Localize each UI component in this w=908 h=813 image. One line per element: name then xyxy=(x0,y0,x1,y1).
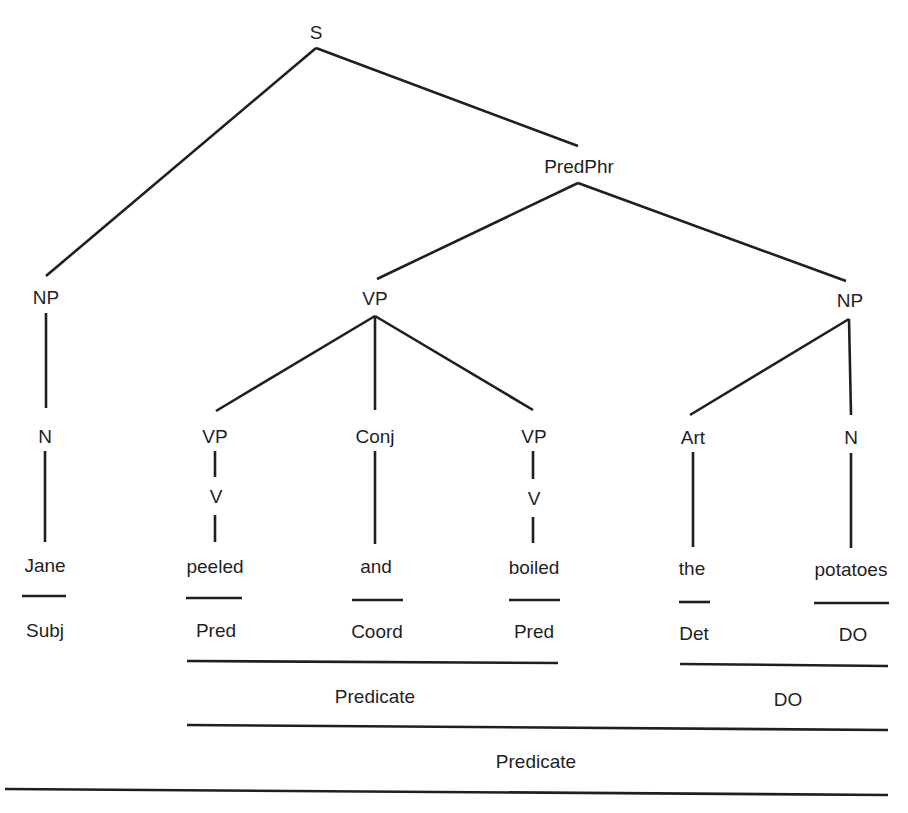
function-det: Det xyxy=(679,623,709,644)
group-line-predicate-inner xyxy=(187,661,558,663)
node-np-obj: NP xyxy=(837,290,863,311)
node-art: Art xyxy=(681,427,706,448)
node-v-left: V xyxy=(210,486,223,507)
group-line-sentence xyxy=(5,789,888,795)
node-s: S xyxy=(310,22,323,43)
node-n-subj: N xyxy=(38,426,52,447)
group-label-predicate-outer: Predicate xyxy=(496,751,576,772)
edge-vp-vp-left xyxy=(216,316,375,411)
edge-predphr-vp xyxy=(377,183,578,279)
function-pred-1: Pred xyxy=(196,620,236,641)
syntax-tree-diagram: S PredPhr NP VP NP N VP Conj VP Art N V … xyxy=(0,0,908,813)
function-pred-2: Pred xyxy=(514,621,554,642)
function-do: DO xyxy=(839,624,868,645)
word-potatoes: potatoes xyxy=(815,559,888,580)
edge-np-n-obj xyxy=(849,319,851,415)
group-line-predicate-outer xyxy=(187,725,888,730)
node-conj: Conj xyxy=(355,426,394,447)
edge-s-predphr xyxy=(316,48,578,146)
node-n-obj: N xyxy=(844,427,858,448)
node-np-subj: NP xyxy=(33,287,59,308)
word-peeled: peeled xyxy=(186,556,243,577)
function-subj: Subj xyxy=(26,620,64,641)
edge-np-art xyxy=(690,319,849,415)
node-v-right: V xyxy=(528,488,541,509)
edge-predphr-np xyxy=(578,183,846,281)
node-vp-left: VP xyxy=(202,426,227,447)
edge-vp-vp-right xyxy=(375,316,533,410)
word-jane: Jane xyxy=(24,555,65,576)
word-the: the xyxy=(679,558,705,579)
node-vp-main: VP xyxy=(362,288,387,309)
word-boiled: boiled xyxy=(509,557,560,578)
group-label-do: DO xyxy=(774,689,803,710)
group-line-do xyxy=(680,664,888,666)
word-and: and xyxy=(360,556,392,577)
function-coord: Coord xyxy=(351,621,403,642)
node-vp-right: VP xyxy=(521,426,546,447)
edge-s-np xyxy=(46,48,316,276)
node-predphr: PredPhr xyxy=(544,156,614,177)
group-label-predicate-inner: Predicate xyxy=(335,686,415,707)
